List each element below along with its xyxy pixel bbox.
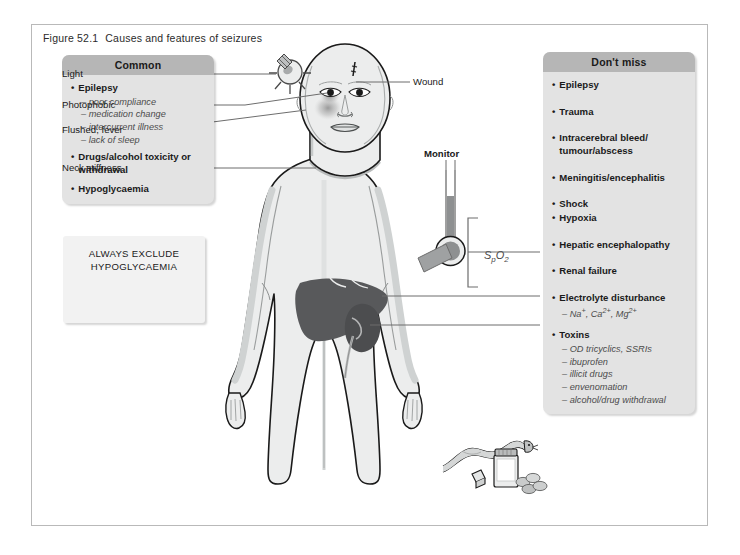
dm-item-trauma: • Trauma: [552, 106, 686, 119]
spo2-2: 2: [504, 255, 508, 264]
charge-ca: 2+: [602, 306, 610, 315]
dm-sub-electrolytes-na: – Na: [562, 309, 581, 319]
dm-sub-od-tricyclics: – OD tricyclics, SSRIs: [552, 343, 686, 356]
panel-dont-miss: Don't miss • Epilepsy • Trauma • Intrace…: [543, 52, 695, 414]
figure-caption: Figure 52.1Causes and features of seizur…: [43, 32, 262, 44]
dm-item-toxins: • Toxins: [552, 329, 686, 342]
bullet-icon: •: [552, 212, 555, 225]
bullet-icon: •: [552, 132, 555, 145]
spacer: [552, 252, 686, 265]
common-item-epilepsy: • Epilepsy: [71, 82, 205, 95]
dm-sub-electrolytes-mg: , Mg: [611, 309, 629, 319]
figure-root: Figure 52.1Causes and features of seizur…: [0, 0, 740, 555]
label-spo2: SpO2: [484, 249, 509, 264]
dm-sub-alcohol-drug-withdrawal: – alcohol/drug withdrawal: [552, 394, 686, 407]
common-item-hypoglycaemia-label: Hypoglycaemia: [78, 183, 205, 196]
bullet-icon: •: [552, 106, 555, 119]
spacer: [552, 185, 686, 198]
panel-common-header: Common: [62, 55, 214, 75]
dm-item-toxins-label: Toxins: [559, 329, 686, 342]
dm-item-hypoxia: • Hypoxia: [552, 212, 686, 225]
spacer: [552, 119, 686, 132]
spacer: [552, 279, 686, 292]
label-photophobic: Photophobic: [62, 99, 115, 110]
dm-item-intracerebral-bleed-label: Intracerebral bleed/ tumour/abscess: [559, 132, 686, 157]
spacer: [552, 93, 686, 106]
dm-sub-illicit-drugs: – illicit drugs: [552, 368, 686, 381]
bullet-icon: •: [552, 79, 555, 92]
panel-dont-miss-header: Don't miss: [543, 52, 695, 72]
common-item-epilepsy-label: Epilepsy: [78, 82, 205, 95]
bullet-icon: •: [71, 82, 74, 95]
bullet-icon: •: [552, 329, 555, 342]
label-wound: Wound: [413, 76, 443, 87]
dm-item-hepatic-encephalopathy: • Hepatic encephalopathy: [552, 239, 686, 252]
bullet-icon: •: [552, 292, 555, 305]
figure-caption-text: Causes and features of seizures: [105, 32, 262, 44]
common-sub-medication-change: – medication change: [71, 108, 205, 121]
spacer: [552, 159, 686, 172]
dm-item-meningitis: • Meningitis/encephalitis: [552, 172, 686, 185]
dm-item-hepatic-encephalopathy-label: Hepatic encephalopathy: [559, 239, 686, 252]
dm-item-shock-label: Shock: [559, 198, 686, 211]
dm-item-intracerebral-bleed: • Intracerebral bleed/ tumour/abscess: [552, 132, 686, 157]
panel-dont-miss-body: • Epilepsy • Trauma • Intracerebral blee…: [543, 72, 695, 414]
charge-mg: 2+: [629, 306, 637, 315]
bullet-icon: •: [552, 172, 555, 185]
exclude-line-2: HYPOGLYCAEMIA: [63, 261, 205, 272]
dm-item-electrolyte-disturbance-label: Electrolyte disturbance: [559, 292, 686, 305]
common-sub-lack-of-sleep: – lack of sleep: [71, 134, 205, 147]
dm-sub-ibuprofen: – ibuprofen: [552, 356, 686, 369]
dm-item-renal-failure-label: Renal failure: [559, 265, 686, 278]
figure-number: Figure 52.1: [43, 32, 98, 44]
dm-item-epilepsy-label: Epilepsy: [559, 79, 686, 92]
panel-exclude-hypoglycaemia: ALWAYS EXCLUDE HYPOGLYCAEMIA: [63, 236, 205, 323]
dm-item-renal-failure: • Renal failure: [552, 265, 686, 278]
dm-sub-electrolytes: – Na+, Ca2+, Mg2+: [552, 306, 686, 321]
dm-sub-electrolytes-ca: , Ca: [586, 309, 603, 319]
dm-item-shock: • Shock: [552, 198, 686, 211]
bullet-icon: •: [552, 265, 555, 278]
spacer: [552, 226, 686, 239]
label-monitor: Monitor: [424, 148, 459, 159]
dm-item-hypoxia-label: Hypoxia: [559, 212, 686, 225]
spacer: [552, 320, 686, 329]
label-neck-stiffness: Neck stiffness: [62, 162, 122, 173]
bullet-icon: •: [71, 183, 74, 196]
dm-item-trauma-label: Trauma: [559, 106, 686, 119]
exclude-line-1: ALWAYS EXCLUDE: [63, 248, 205, 259]
panel-common-body: • Epilepsy – poor compliance – medicatio…: [62, 75, 214, 204]
bullet-icon: •: [552, 239, 555, 252]
dm-sub-envenomation: – envenomation: [552, 381, 686, 394]
label-light: Light: [62, 68, 83, 79]
dm-item-electrolyte-disturbance: • Electrolyte disturbance: [552, 292, 686, 305]
common-item-hypoglycaemia: • Hypoglycaemia: [71, 183, 205, 196]
label-flushed-fever: Flushed, fever: [62, 124, 123, 135]
dm-item-epilepsy: • Epilepsy: [552, 79, 686, 92]
dm-item-meningitis-label: Meningitis/encephalitis: [559, 172, 686, 185]
bullet-icon: •: [552, 198, 555, 211]
